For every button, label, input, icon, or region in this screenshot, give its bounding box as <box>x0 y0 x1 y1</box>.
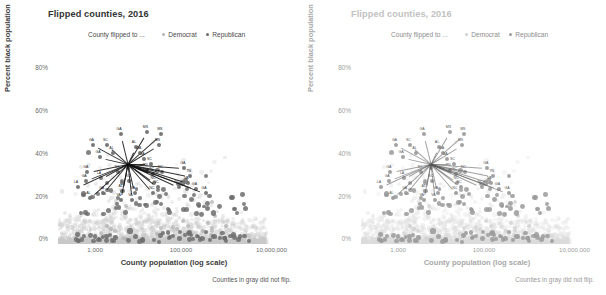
data-point <box>137 203 141 207</box>
data-point <box>495 193 500 198</box>
data-point <box>139 184 143 188</box>
data-point <box>512 169 516 173</box>
data-point <box>149 221 152 224</box>
data-point <box>543 192 547 196</box>
data-point <box>145 130 149 134</box>
state-annotation-label: NC <box>154 180 159 184</box>
y-axis-ticks: 80% 60% 40% 20% 0% <box>22 0 48 295</box>
state-annotation-label: GA <box>192 182 197 186</box>
data-point <box>133 191 137 195</box>
data-point <box>79 211 83 215</box>
data-point <box>74 237 78 241</box>
data-point <box>194 211 199 216</box>
state-annotation-label: SC <box>450 157 455 161</box>
data-point <box>187 230 191 234</box>
x-axis-ticks: 1,000 100,000 10,000,000 <box>361 246 593 256</box>
data-point <box>420 241 424 244</box>
state-annotation-label: LA <box>377 180 381 184</box>
data-point <box>83 210 87 214</box>
data-point <box>86 150 91 155</box>
state-annotation-label: GA <box>83 165 88 169</box>
data-point <box>550 234 554 238</box>
data-point <box>93 234 98 239</box>
data-point <box>397 182 401 186</box>
legend-item-republican[interactable]: Republican <box>206 31 245 38</box>
y-axis-ticks: 80% 60% 40% 20% 0% <box>325 0 351 295</box>
legend-label-democrat: Democrat <box>471 31 500 38</box>
data-point <box>489 224 493 228</box>
data-point <box>91 143 95 147</box>
data-point <box>502 212 507 217</box>
legend-item-republican[interactable]: Republican <box>509 31 548 38</box>
data-point <box>376 192 380 196</box>
data-point <box>156 208 159 211</box>
scatter-plot-area[interactable]: GAGASCALGAMSMSMSALGAGASCTNSCNCGASCGALALA… <box>58 58 290 244</box>
data-point <box>489 181 493 185</box>
data-point <box>126 238 131 243</box>
data-point <box>74 219 77 222</box>
data-point <box>369 218 372 221</box>
x-axis-label: County population (log scale) <box>361 258 593 267</box>
data-point <box>460 143 464 147</box>
data-point <box>223 236 228 241</box>
data-point <box>81 226 84 229</box>
data-point <box>447 218 450 221</box>
data-point <box>242 234 246 238</box>
legend-dot-democrat <box>162 33 165 36</box>
state-annotation-label: VA <box>184 176 188 180</box>
data-point <box>112 212 115 215</box>
data-point <box>404 212 408 216</box>
state-annotation-label: GA <box>495 182 500 186</box>
data-point <box>506 241 510 244</box>
legend-item-democrat[interactable]: Democrat <box>162 31 197 38</box>
data-point <box>480 185 484 189</box>
data-point <box>433 198 437 202</box>
x-axis-ticks: 1,000 100,000 10,000,000 <box>58 246 290 256</box>
state-annotation-label: GA <box>399 150 404 154</box>
data-point <box>76 185 80 189</box>
data-point <box>247 234 251 238</box>
data-point <box>162 206 166 210</box>
small-multiples-container: Flipped counties, 2016 County flipped to… <box>0 0 606 295</box>
state-annotation-label: SC <box>406 138 411 142</box>
data-point <box>113 235 118 240</box>
data-point <box>161 187 166 192</box>
chart-footnote: Counties in gray did not flip. <box>212 276 291 283</box>
data-point <box>389 241 394 244</box>
data-point <box>431 218 435 222</box>
data-point <box>509 221 513 225</box>
legend-item-democrat[interactable]: Democrat <box>465 31 500 38</box>
data-point <box>395 212 400 217</box>
data-point <box>206 221 210 225</box>
data-point <box>478 163 481 166</box>
data-point <box>189 197 194 202</box>
state-annotation-label: GA <box>136 146 141 150</box>
data-point <box>224 224 228 228</box>
data-point <box>416 229 420 233</box>
data-point <box>474 238 478 242</box>
data-point <box>436 234 441 239</box>
data-point <box>415 212 418 215</box>
state-annotation-label: NC <box>457 180 462 184</box>
data-point <box>386 210 390 214</box>
data-point <box>497 211 502 216</box>
y-tick: 20% <box>325 193 351 200</box>
y-tick: 80% <box>22 64 48 71</box>
y-tick: 60% <box>22 107 48 114</box>
data-point <box>217 204 222 209</box>
data-point <box>400 208 403 211</box>
state-annotation-label: AL <box>389 191 393 195</box>
data-point <box>212 160 217 165</box>
scatter-plot-area[interactable]: GAGASCALGAMSMSMSALGAGASCTNSCNCGASCGALALA… <box>361 58 593 244</box>
data-point <box>384 193 388 197</box>
data-point <box>92 212 97 217</box>
data-point <box>170 200 173 203</box>
data-point <box>186 181 190 185</box>
data-point <box>438 182 442 186</box>
data-point <box>132 207 137 212</box>
x-tick: 1,000 <box>390 246 405 253</box>
data-point <box>123 210 127 214</box>
data-point <box>416 235 421 240</box>
y-tick: 0% <box>325 235 351 242</box>
data-point <box>396 234 401 239</box>
